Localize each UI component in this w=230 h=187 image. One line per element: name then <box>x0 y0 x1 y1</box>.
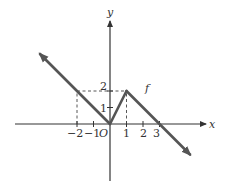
y-tick-label-2: 2 <box>100 80 107 93</box>
x-axis-label: x <box>209 118 216 131</box>
origin-label: O <box>99 127 108 140</box>
x-tick-label-1: 1 <box>123 127 130 140</box>
x-tick-label-neg2: −2 <box>67 127 83 140</box>
x-tick-label-2: 2 <box>140 127 147 140</box>
graph-right-ray <box>127 91 191 155</box>
y-axis-label: y <box>106 6 114 19</box>
function-graph: y x f O −2 −1 1 2 3 1 2 <box>0 0 230 187</box>
function-label: f <box>144 82 151 95</box>
x-tick-label-neg1: −1 <box>84 127 100 140</box>
y-tick-label-1: 1 <box>100 102 107 115</box>
x-tick-label-3: 3 <box>153 127 160 140</box>
